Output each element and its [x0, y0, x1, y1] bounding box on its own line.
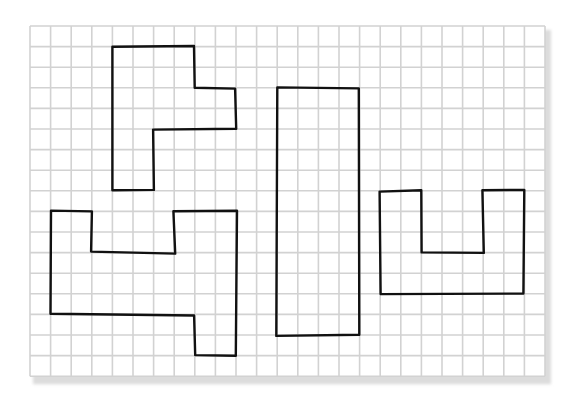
paper-rect — [30, 26, 545, 376]
paper-sheet — [30, 26, 545, 376]
grid-paper-figure — [0, 0, 580, 403]
